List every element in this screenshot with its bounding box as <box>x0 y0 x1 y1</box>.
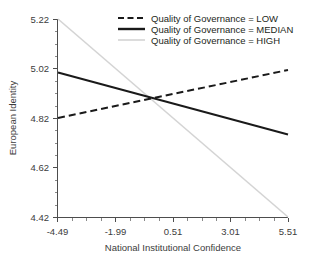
y-tick-label-3: 4.62 <box>31 162 50 173</box>
y-tick-label-0: 5.22 <box>31 14 50 25</box>
x-axis-title: National Institutional Confidence <box>105 242 241 253</box>
x-tick-label-3: 3.01 <box>221 226 240 237</box>
x-tick-label-1: -1.99 <box>105 226 127 237</box>
x-axis-ticks <box>58 218 289 222</box>
chart-container: 5.22 5.02 4.82 4.62 4.42 -4.49 -1.99 0.5… <box>0 0 311 263</box>
series-line-low <box>58 70 288 118</box>
y-axis-ticks <box>53 20 57 218</box>
y-tick-label-4: 4.42 <box>31 212 50 223</box>
legend-label-high: Quality of Governance = HIGH <box>151 35 280 46</box>
y-tick-label-1: 5.02 <box>31 63 50 74</box>
y-axis-title: European Identity <box>7 81 18 156</box>
legend-label-median: Quality of Governance = MEDIAN <box>151 24 293 35</box>
x-tick-label-0: -4.49 <box>47 226 69 237</box>
series-line-median <box>58 73 288 135</box>
y-tick-label-2: 4.82 <box>31 113 50 124</box>
chart-legend: Quality of Governance = LOW Quality of G… <box>118 13 293 46</box>
x-tick-label-2: 0.51 <box>164 226 183 237</box>
legend-label-low: Quality of Governance = LOW <box>151 13 278 24</box>
series-line-high <box>58 19 288 217</box>
x-tick-label-4: 5.51 <box>279 226 298 237</box>
line-chart: 5.22 5.02 4.82 4.62 4.42 -4.49 -1.99 0.5… <box>0 0 311 263</box>
